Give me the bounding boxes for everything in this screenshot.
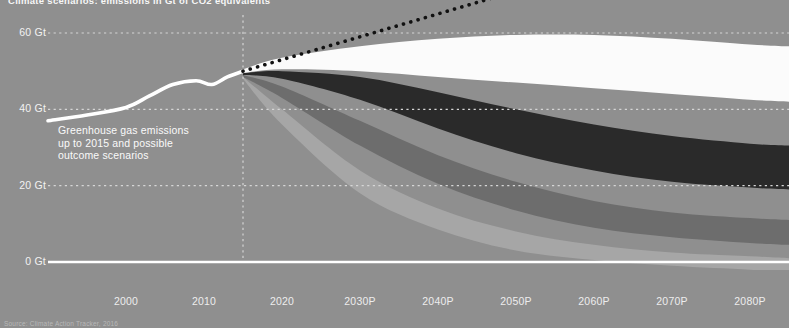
y-axis-tick-label: 40 Gt: [0, 102, 46, 114]
x-axis-tick-label: 2080P: [734, 295, 765, 307]
x-axis-tick-label: 2000: [114, 295, 138, 307]
scenario-band: [243, 34, 789, 101]
chart-annotation: Greenhouse gas emissions up to 2015 and …: [58, 124, 189, 162]
y-axis-tick-label: 0 Gt: [0, 255, 46, 267]
x-axis-tick-label: 2010: [192, 295, 216, 307]
x-axis-tick-label: 2020: [270, 295, 294, 307]
x-axis-tick-label: 2030P: [344, 295, 375, 307]
y-axis-tick-label: 20 Gt: [0, 179, 46, 191]
source-caption: Source: Climate Action Tracker, 2016: [4, 320, 118, 328]
historical-emissions-line: [48, 71, 243, 121]
scenario-band-group: [243, 34, 789, 271]
x-axis-tick-label: 2050P: [500, 295, 531, 307]
chart-canvas: [0, 0, 789, 328]
x-axis-tick-label: 2060P: [578, 295, 609, 307]
chart-root: Climate scenarios: emissions in Gt of CO…: [0, 0, 789, 328]
y-axis-tick-label: 60 Gt: [0, 26, 46, 38]
x-axis-tick-label: 2040P: [422, 295, 453, 307]
x-axis-tick-label: 2070P: [656, 295, 687, 307]
